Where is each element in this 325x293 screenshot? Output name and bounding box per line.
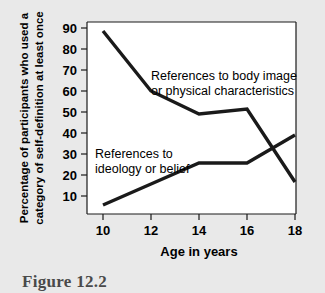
- figure-caption: Figure 12.2: [22, 272, 107, 293]
- y-tick-label: 80: [63, 42, 77, 57]
- ideology-annotation-line2: ideology or belief: [95, 162, 190, 176]
- body-image-annotation: References to body image or physical cha…: [151, 69, 297, 98]
- y-tick-label: 50: [63, 105, 77, 120]
- y-tick-label: 10: [63, 189, 77, 204]
- x-tick-label: 14: [192, 223, 207, 238]
- y-tick-label: 60: [63, 84, 77, 99]
- y-tick-label: 90: [63, 21, 77, 36]
- y-axis-ticks: [81, 28, 87, 196]
- y-axis-title-line2: category of self-definition at least onc…: [33, 11, 45, 224]
- figure-container: 90 80 70 60 50 40 30 20 10 10 12 14 16 1…: [0, 0, 325, 293]
- y-tick-label: 30: [63, 147, 77, 162]
- y-tick-label: 20: [63, 168, 77, 183]
- x-axis-ticks: [103, 214, 295, 220]
- ideology-annotation-line1: References to: [95, 147, 173, 161]
- x-tick-label: 18: [288, 223, 302, 238]
- x-tick-label: 16: [240, 223, 254, 238]
- y-axis-title-line1: Percentage of participants who used a: [18, 12, 30, 223]
- body-image-annotation-line1: References to body image: [151, 69, 297, 83]
- y-axis-tick-labels: 90 80 70 60 50 40 30 20 10: [63, 21, 77, 204]
- y-tick-label: 40: [63, 126, 77, 141]
- y-tick-label: 70: [63, 63, 77, 78]
- line-chart: 90 80 70 60 50 40 30 20 10 10 12 14 16 1…: [0, 0, 325, 293]
- x-axis-title: Age in years: [160, 244, 237, 259]
- body-image-annotation-line2: or physical characteristics: [151, 84, 294, 98]
- x-axis-tick-labels: 10 12 14 16 18: [96, 223, 302, 238]
- x-tick-label: 10: [96, 223, 110, 238]
- x-tick-label: 12: [144, 223, 158, 238]
